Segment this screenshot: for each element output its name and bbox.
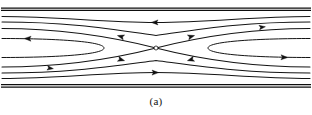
left-loop [2,39,104,58]
right-loop [208,39,310,58]
arrow-lower-left-outflow [117,56,125,63]
arrow-upper-right-outflow [187,33,195,40]
arrow-upper-right-far [259,24,266,29]
arrow-upper-left-inflow [117,33,125,40]
arrow-lower-right-inflow [187,56,195,63]
figure-caption: (a) [0,94,312,108]
streamline-diagram [0,0,312,97]
arrow-lower-left-far [47,66,54,71]
x-point-null-marker [154,46,158,50]
figure-container: (a) [0,0,312,115]
